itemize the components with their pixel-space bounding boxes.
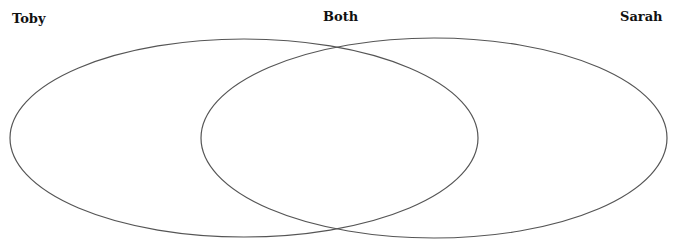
ellipse-toby <box>10 39 478 237</box>
ellipse-sarah <box>201 38 667 238</box>
venn-diagram <box>0 0 677 240</box>
